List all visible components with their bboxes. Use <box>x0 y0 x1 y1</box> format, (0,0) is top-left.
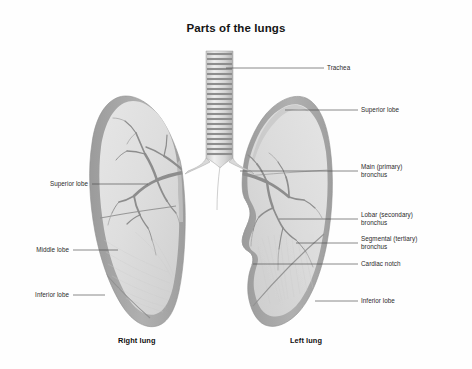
caption-right-lung: Right lung <box>118 336 156 345</box>
label-main-bronchus: Main (primary) bronchus <box>361 163 402 179</box>
caption-left-lung: Left lung <box>290 336 322 345</box>
label-segmental-bronchus: Segmental (tertiary) bronchus <box>361 235 417 251</box>
label-trachea: Trachea <box>327 64 350 72</box>
label-inferior-lobe-right-lung: Inferior lobe <box>0 291 69 299</box>
label-middle-lobe-right-lung: Middle lobe <box>0 246 69 254</box>
lung-anatomy-figure: Parts of the lungs <box>0 0 472 369</box>
label-inferior-lobe-left-lung: Inferior lobe <box>361 297 395 305</box>
label-superior-lobe-right-lung: Superior lobe <box>0 180 88 188</box>
label-cardiac-notch: Cardiac notch <box>361 260 401 268</box>
right-lung-graphic <box>90 96 186 327</box>
left-lung-graphic <box>240 96 332 326</box>
label-lobar-bronchus: Lobar (secondary) bronchus <box>361 211 413 227</box>
label-superior-lobe-left-lung: Superior lobe <box>361 106 399 114</box>
